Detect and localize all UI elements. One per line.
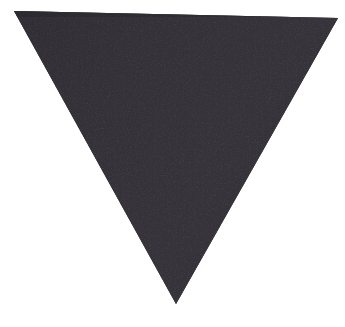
image-canvas: [0, 0, 345, 327]
triangle-figure: [0, 0, 345, 327]
